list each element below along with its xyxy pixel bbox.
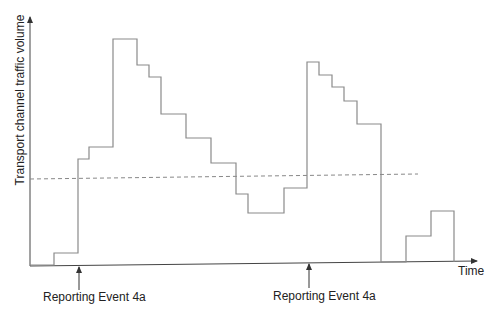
x-axis (30, 261, 477, 266)
y-axis-label: Transport channel traffic volume (13, 15, 27, 186)
threshold-line (30, 174, 418, 179)
traffic-volume-diagram (0, 0, 492, 319)
x-axis-label: Time (458, 264, 484, 278)
event-label-2: Reporting Event 4a (273, 289, 376, 303)
traffic-step-curve (30, 39, 454, 265)
event-label-1: Reporting Event 4a (43, 290, 146, 304)
